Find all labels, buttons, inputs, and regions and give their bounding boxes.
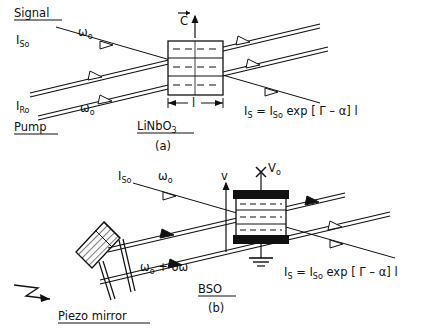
label-piezo-mirror: Piezo mirror: [58, 309, 127, 323]
label-length-a: l: [192, 96, 195, 110]
svg-text:IS = ISo exp [ Γ – α] l: IS = ISo exp [ Γ – α] l: [244, 104, 358, 120]
figure-container: Signal ISo ωo IRo ωo Pump C l LiNbO3 (a)…: [0, 0, 429, 328]
label-omega-pump-a: ωo: [80, 101, 95, 117]
label-omega-signal-a: ωo: [78, 25, 93, 41]
label-c-axis: C: [180, 14, 188, 28]
label-voltage-b: Vo: [268, 161, 281, 177]
label-signal-intensity: ISo: [16, 33, 29, 49]
label-pump: Pump: [14, 120, 47, 134]
label-omega-shifted-b: ωo + δω: [140, 260, 188, 276]
label-signal: Signal: [14, 6, 49, 20]
label-pump-intensity: IRo: [16, 99, 30, 115]
caption-b: (b): [208, 301, 224, 315]
label-velocity-b: v: [221, 169, 228, 183]
equation-b: IS = ISo exp [ Γ – α] l: [284, 265, 398, 281]
label-crystal-linbo3: LiNbO3: [137, 119, 177, 135]
label-signal-intensity-b: ISo: [118, 169, 131, 185]
label-crystal-bso: BSO: [198, 282, 222, 296]
equation-a: IS = ISo exp [ Γ – α] l: [244, 104, 358, 120]
text-layer: Signal ISo ωo IRo ωo Pump C l LiNbO3 (a)…: [0, 0, 429, 328]
svg-text:IS = ISo exp [ Γ – α] l: IS = ISo exp [ Γ – α] l: [284, 265, 398, 281]
caption-a: (a): [155, 139, 171, 153]
label-omega-signal-b: ωo: [158, 169, 173, 185]
